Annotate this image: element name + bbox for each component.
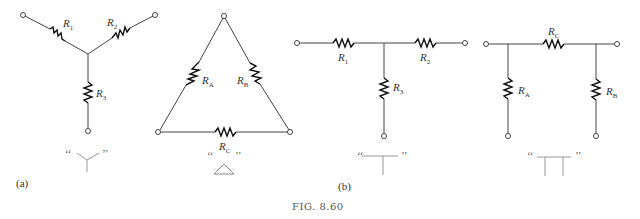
terminal-icon bbox=[86, 129, 91, 134]
terminal-icon bbox=[156, 130, 161, 135]
open-quote: ‘‘ bbox=[357, 149, 364, 161]
terminal-icon bbox=[153, 13, 158, 18]
label-rc: RC bbox=[547, 25, 560, 40]
close-quote: ’’ bbox=[401, 149, 408, 161]
terminal-icon bbox=[484, 42, 489, 47]
close-quote: ’’ bbox=[235, 149, 242, 161]
pi-network bbox=[484, 40, 620, 176]
close-quote: ’’ bbox=[575, 149, 582, 161]
circuit-diagram: R1 R2 R3 ‘‘ ’’ (a) RA RB RC ‘‘ ’’ R1 R2 … bbox=[0, 0, 640, 219]
open-quote: ‘‘ bbox=[65, 147, 72, 159]
panel-label-a: (a) bbox=[16, 177, 29, 190]
tee-network bbox=[295, 39, 468, 175]
label-rb: RB bbox=[605, 85, 618, 100]
terminal-icon bbox=[506, 134, 511, 139]
label-r1: R1 bbox=[337, 51, 349, 66]
label-r3: R3 bbox=[392, 81, 404, 96]
label-ra: RA bbox=[201, 74, 214, 89]
figure-caption: FIG. 8.60 bbox=[292, 201, 344, 212]
terminal-icon bbox=[594, 134, 599, 139]
open-quote: ‘‘ bbox=[527, 149, 534, 161]
label-r3: R3 bbox=[95, 87, 107, 102]
terminal-icon bbox=[222, 14, 227, 19]
terminal-icon bbox=[295, 41, 300, 46]
wye-network bbox=[21, 13, 158, 173]
label-r2: R2 bbox=[419, 51, 431, 66]
terminal-icon bbox=[288, 130, 293, 135]
terminal-icon bbox=[382, 134, 387, 139]
label-r2: R2 bbox=[106, 16, 118, 31]
terminal-icon bbox=[615, 42, 620, 47]
terminal-icon bbox=[21, 13, 26, 18]
open-quote: ‘‘ bbox=[207, 149, 214, 161]
terminal-icon bbox=[463, 41, 468, 46]
label-rb: RB bbox=[236, 74, 249, 89]
label-rc: RC bbox=[218, 140, 231, 155]
close-quote: ’’ bbox=[102, 147, 109, 159]
label-ra: RA bbox=[517, 84, 530, 99]
label-r1: R1 bbox=[62, 17, 74, 32]
panel-label-b: (b) bbox=[338, 180, 351, 193]
